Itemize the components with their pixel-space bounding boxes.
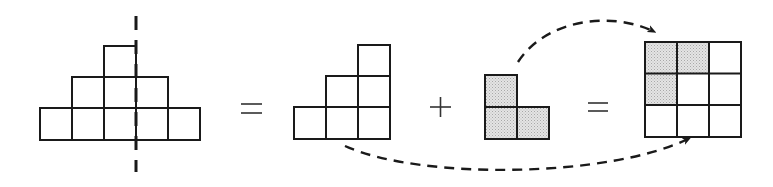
l-piece-shaded <box>485 75 549 139</box>
grid-cell <box>709 105 741 137</box>
equals-sign-2 <box>588 103 608 111</box>
square-grid-3x3 <box>645 42 741 137</box>
staircase-shape <box>294 45 390 139</box>
pyramid-cell <box>104 46 136 78</box>
pyramid-cell <box>136 108 168 140</box>
pyramid-cell <box>40 108 72 140</box>
pyramid-cell <box>72 108 104 140</box>
staircase-cell <box>294 107 326 139</box>
arrow-l-piece-to-square <box>518 21 655 62</box>
decomposition-diagram <box>0 0 773 187</box>
l-piece-cell <box>485 75 517 107</box>
grid-cell <box>677 74 709 106</box>
staircase-cell <box>326 76 358 108</box>
pyramid-shape <box>40 46 200 140</box>
equals-sign-1 <box>241 104 262 113</box>
grid-cell-shaded <box>645 74 677 106</box>
pyramid-cell <box>136 77 168 109</box>
pyramid-cell <box>104 108 136 140</box>
l-piece-cell <box>517 107 549 139</box>
grid-cell-shaded <box>645 42 677 74</box>
grid-cell <box>677 105 709 137</box>
staircase-cell <box>358 107 390 139</box>
grid-cell-shaded <box>677 42 709 74</box>
staircase-cell <box>326 107 358 139</box>
grid-cell <box>709 42 741 74</box>
staircase-cell <box>358 45 390 77</box>
arrow-staircase-to-square <box>345 138 690 170</box>
grid-cell <box>645 105 677 137</box>
l-piece-cell <box>485 107 517 139</box>
staircase-cell <box>358 76 390 108</box>
grid-cell <box>709 74 741 106</box>
pyramid-cell <box>72 77 104 109</box>
plus-sign <box>430 97 451 117</box>
pyramid-cell <box>168 108 200 140</box>
pyramid-cell <box>104 77 136 109</box>
